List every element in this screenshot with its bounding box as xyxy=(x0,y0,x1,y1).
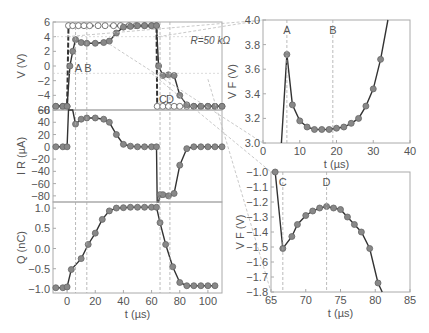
filled-dot-marker xyxy=(154,204,160,210)
filled-dot-marker xyxy=(78,40,84,46)
y-tick-label: −20 xyxy=(31,153,50,165)
x-tick-label: 60 xyxy=(145,295,157,307)
filled-dot-marker xyxy=(64,103,70,109)
filled-dot-marker xyxy=(341,124,347,130)
series-line xyxy=(56,110,222,202)
marker-label-B: B xyxy=(84,62,91,74)
filled-dot-marker xyxy=(356,115,362,121)
filled-dot-marker xyxy=(142,144,148,150)
filled-dot-marker xyxy=(135,204,141,210)
filled-dot-marker xyxy=(184,146,190,152)
open-circle-marker xyxy=(177,103,183,109)
filled-dot-marker xyxy=(205,103,211,109)
y-tick-label: 60 xyxy=(38,104,50,116)
y-tick-label: 6 xyxy=(44,16,50,28)
y-tick-label: 3.2 xyxy=(245,112,260,124)
filled-dot-marker xyxy=(348,120,354,126)
open-circle-marker xyxy=(102,23,108,29)
filled-dot-marker xyxy=(375,280,381,286)
filled-dot-marker xyxy=(198,283,204,289)
filled-dot-marker xyxy=(78,116,84,122)
x-tick-label: 0 xyxy=(260,145,266,157)
x-tick-label: 40 xyxy=(117,295,129,307)
filled-dot-marker xyxy=(92,230,98,236)
series-line xyxy=(281,20,388,143)
y-tick-label: −1.7 xyxy=(246,271,268,283)
open-circle-marker xyxy=(87,23,93,29)
x-tick-label: 80 xyxy=(369,294,381,306)
filled-dot-marker xyxy=(294,222,300,228)
filled-dot-marker xyxy=(212,144,218,150)
y-tick-label: −80 xyxy=(31,190,50,202)
y-tick-label: 3.8 xyxy=(245,39,260,51)
filled-dot-marker xyxy=(170,264,176,270)
y-tick-label: −0.5 xyxy=(28,263,50,275)
y-tick-label: −1.3 xyxy=(246,211,268,223)
filled-dot-marker xyxy=(338,207,344,213)
filled-dot-marker xyxy=(205,283,211,289)
zoom-connector-line xyxy=(109,44,263,143)
filled-dot-marker xyxy=(344,214,350,220)
plot-lines-layer xyxy=(53,20,410,293)
y-tick-label: 40 xyxy=(38,116,50,128)
y-tick-label: 3.6 xyxy=(245,63,260,75)
x-tick-label: 20 xyxy=(89,295,101,307)
x-tick-label: 30 xyxy=(367,145,379,157)
filled-dot-marker xyxy=(70,48,76,54)
filled-dot-marker xyxy=(184,283,190,289)
filled-dot-marker xyxy=(351,222,357,228)
filled-dot-marker xyxy=(363,103,369,109)
y-tick-label: −1.5 xyxy=(246,241,268,253)
open-circle-marker xyxy=(95,23,101,29)
filled-dot-marker xyxy=(120,141,126,147)
filled-dot-marker xyxy=(78,256,84,262)
filled-dot-marker xyxy=(68,267,74,273)
x-tick-label: 40 xyxy=(404,145,416,157)
filled-dot-marker xyxy=(53,144,59,150)
y-axis-label: Q (nC) xyxy=(15,231,27,264)
filled-dot-marker xyxy=(358,229,364,235)
y-tick-label: 1.0 xyxy=(35,202,50,214)
marker-label-A: A xyxy=(75,62,83,74)
filled-dot-marker xyxy=(297,118,303,124)
filled-dot-marker xyxy=(160,192,166,198)
marker-label-C: C xyxy=(279,176,287,188)
filled-dot-marker xyxy=(106,38,112,44)
filled-dot-marker xyxy=(64,144,70,150)
filled-dot-marker xyxy=(127,23,133,29)
filled-dot-marker xyxy=(127,204,133,210)
x-tick-label: 20 xyxy=(330,145,342,157)
filled-dot-marker xyxy=(303,213,309,219)
open-circle-marker xyxy=(70,23,76,29)
marker-label-B: B xyxy=(329,24,336,36)
y-tick-label: 0.5 xyxy=(35,222,50,234)
open-circle-marker xyxy=(111,23,117,29)
filled-dot-marker xyxy=(334,125,340,131)
y-tick-label: 0 xyxy=(44,141,50,153)
filled-dot-marker xyxy=(53,285,59,291)
filled-dot-marker xyxy=(165,72,171,78)
filled-dot-marker xyxy=(378,56,384,62)
x-axis-label: t (µs) xyxy=(328,307,353,319)
y-axis-label: V F (V) xyxy=(226,64,238,99)
y-tick-label: 4.0 xyxy=(245,14,260,26)
x-axis-label: t (µs) xyxy=(125,308,150,320)
y-tick-label: −1.1 xyxy=(246,181,268,193)
y-tick-label: 4 xyxy=(44,31,50,43)
filled-dot-marker xyxy=(272,169,278,175)
open-circle-marker xyxy=(81,23,87,29)
filled-dot-marker xyxy=(205,144,211,150)
y-tick-label: −1.4 xyxy=(246,226,268,238)
x-tick-label: 80 xyxy=(174,295,186,307)
y-tick-label: −1.6 xyxy=(246,256,268,268)
marker-label-D: D xyxy=(323,176,331,188)
filled-dot-marker xyxy=(142,23,148,29)
filled-dot-marker xyxy=(92,40,98,46)
y-axis-label: V (V) xyxy=(15,53,27,78)
y-tick-label: 3.4 xyxy=(245,88,260,100)
filled-dot-marker xyxy=(219,103,225,109)
filled-dot-marker xyxy=(367,246,373,252)
y-tick-label: −40 xyxy=(31,165,50,177)
marker-label-D: D xyxy=(166,93,174,105)
filled-dot-marker xyxy=(165,193,171,199)
